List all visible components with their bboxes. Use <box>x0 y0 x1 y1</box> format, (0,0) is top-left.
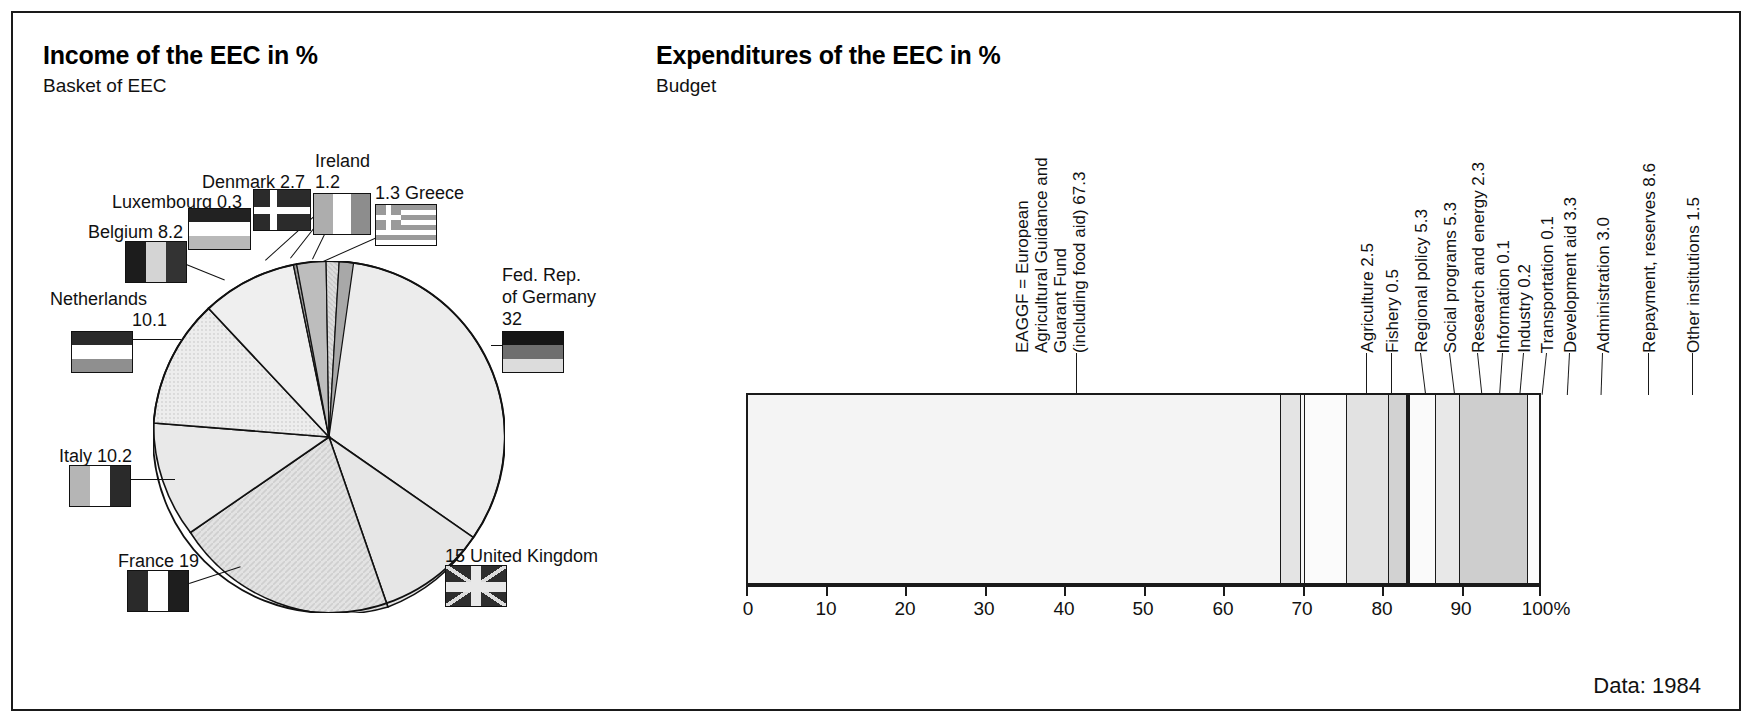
pie-label-belgium: Belgium 8.2 <box>88 222 183 243</box>
axis-tick-70 <box>1303 585 1305 596</box>
bar-segment-other-institutions <box>1527 395 1539 583</box>
axis-tick-90 <box>1462 585 1464 596</box>
flag-france <box>127 570 189 612</box>
chart-frame: Income of the EEC in % Basket of EEC Exp… <box>11 11 1741 711</box>
infographic-page: Income of the EEC in % Basket of EEC Exp… <box>0 0 1754 724</box>
axis-label-70: 70 <box>1291 598 1312 620</box>
callout-regional-policy <box>1420 353 1426 395</box>
bar-label-social-programs: Social programs 5.3 <box>1441 202 1460 353</box>
axis-label-60: 60 <box>1212 598 1233 620</box>
bar-label-eaggf-line3: Guarant Fund <box>1051 139 1070 353</box>
callout-agriculture <box>1366 353 1367 395</box>
flag-luxembourg <box>188 208 251 250</box>
axis-label-40: 40 <box>1053 598 1074 620</box>
flag-italy <box>69 465 131 507</box>
bar-label-eaggf: EAGGF = European Agricultural Guidance a… <box>1013 139 1089 353</box>
bar-label-fishery: Fishery 0.5 <box>1383 269 1402 353</box>
callout-social-programs <box>1449 353 1455 395</box>
axis-label-90: 90 <box>1450 598 1471 620</box>
bar-segment-agriculture <box>1280 395 1300 583</box>
left-panel-title: Income of the EEC in % <box>43 41 318 70</box>
callout-repayment-reserves <box>1648 353 1649 395</box>
leader-netherlands <box>133 339 181 340</box>
pie-label-greece: 1.3 Greece <box>375 183 464 204</box>
pie-label-italy: Italy 10.2 <box>59 446 132 467</box>
callout-development-aid <box>1567 353 1570 395</box>
flag-germany <box>502 331 564 373</box>
flag-netherlands <box>71 331 133 373</box>
flag-denmark <box>253 189 311 231</box>
bar-segment-repayment-reserves <box>1459 395 1527 583</box>
axis-tick-50 <box>1144 585 1146 596</box>
axis-tick-60 <box>1223 585 1225 596</box>
pie-label-germany-value: 32 <box>502 309 522 330</box>
axis-tick-40 <box>1064 585 1066 596</box>
pie-label-uk: 15 United Kingdom <box>445 546 598 567</box>
pie-label-germany-line2: of Germany <box>502 287 596 308</box>
callout-research-energy <box>1477 353 1482 395</box>
right-panel-subtitle: Budget <box>656 75 716 97</box>
bar-label-agriculture: Agriculture 2.5 <box>1358 243 1377 353</box>
callout-industry <box>1519 353 1524 395</box>
axis-label-20: 20 <box>894 598 915 620</box>
right-panel-title: Expenditures of the EEC in % <box>656 41 1000 70</box>
bar-label-regional-policy: Regional policy 5.3 <box>1412 209 1431 353</box>
bar-label-information: Information 0.1 <box>1494 240 1513 353</box>
pie-label-ireland-name: Ireland <box>315 151 370 172</box>
axis-label-30: 30 <box>973 598 994 620</box>
callout-eaggf <box>1076 353 1077 393</box>
flag-belgium <box>125 241 187 283</box>
axis-label-10: 10 <box>815 598 836 620</box>
callout-administration <box>1601 353 1603 395</box>
bar-segment-regional-policy <box>1304 395 1346 583</box>
pie-label-ireland-value: 1.2 <box>315 172 340 193</box>
axis-tick-100 <box>1539 585 1541 596</box>
pie-label-netherlands-name: Netherlands <box>50 289 147 310</box>
axis-tick-20 <box>905 585 907 596</box>
axis-tick-80 <box>1382 585 1384 596</box>
axis-tick-0 <box>746 585 748 596</box>
axis-label-80: 80 <box>1371 598 1392 620</box>
leader-italy <box>131 479 175 480</box>
bar-label-eaggf-line1: EAGGF = European <box>1013 139 1032 353</box>
data-source-note: Data: 1984 <box>1593 673 1701 699</box>
callout-fishery <box>1391 353 1392 395</box>
flag-united-kingdom <box>445 565 507 607</box>
bar-segment-research-energy <box>1388 395 1406 583</box>
expenditures-stacked-bar <box>746 393 1541 585</box>
bar-segment-development-aid <box>1409 395 1435 583</box>
callout-information <box>1499 353 1503 395</box>
bar-x-axis: 0 10 20 30 40 50 60 70 80 90 100% <box>746 585 1545 586</box>
axis-tick-30 <box>985 585 987 596</box>
bar-label-eaggf-line2: Agricultural Guidance and <box>1032 139 1051 353</box>
flag-ireland <box>313 193 371 235</box>
bar-label-industry: Industry 0.2 <box>1515 264 1534 353</box>
bar-segment-eaggf <box>748 395 1280 583</box>
left-panel-subtitle: Basket of EEC <box>43 75 167 97</box>
bar-label-transportation: Transportation 0.1 <box>1538 216 1557 353</box>
axis-tick-10 <box>826 585 828 596</box>
bar-label-development-aid: Development aid 3.3 <box>1561 197 1580 353</box>
bar-segment-administration <box>1435 395 1459 583</box>
axis-label-50: 50 <box>1132 598 1153 620</box>
callout-transportation <box>1542 353 1547 395</box>
bar-label-administration: Administration 3.0 <box>1594 217 1613 353</box>
bar-segment-social-programs <box>1346 395 1388 583</box>
bar-label-other-institutions: Other institutions 1.5 <box>1684 197 1703 353</box>
bar-label-eaggf-line4: (including food aid) 67.3 <box>1070 139 1089 353</box>
axis-label-100: 100% <box>1522 598 1571 620</box>
bar-label-repayment-reserves: Repayment, reserves 8.6 <box>1640 163 1659 353</box>
callout-other-institutions <box>1692 353 1693 395</box>
axis-label-0: 0 <box>743 598 754 620</box>
flag-greece <box>375 204 437 246</box>
bar-label-research-energy: Research and energy 2.3 <box>1469 162 1488 353</box>
pie-label-france: France 19 <box>118 551 199 572</box>
pie-label-netherlands-value: 10.1 <box>50 310 167 331</box>
pie-label-germany-line1: Fed. Rep. <box>502 265 581 286</box>
